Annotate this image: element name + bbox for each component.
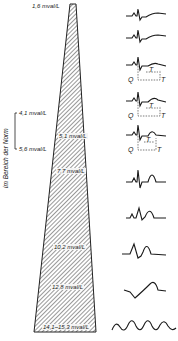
ecg-trace-7: [126, 208, 166, 220]
ecg-traces: [112, 9, 176, 330]
wedge-label-2: 7,7 mval/L: [56, 168, 86, 174]
ecg-trace-10: [112, 321, 176, 330]
wedge-label-5: 14,1–15,3 mval/L: [42, 324, 90, 330]
q-label-2: Q: [128, 112, 133, 119]
ecg-trace-2: [126, 30, 166, 42]
t-label-2: T: [161, 112, 165, 119]
q-label-1: Q: [128, 76, 133, 83]
q-label-3: Q: [128, 146, 133, 153]
top-value-label: 1,6 mval/L: [32, 3, 60, 9]
bracket-lower-label: 5,6 mval/L: [19, 146, 47, 152]
norm-bracket: [15, 113, 17, 149]
wedge-label-1: 5,1 mval/L: [58, 133, 88, 139]
wedge-label-3: 10,2 mval/L: [53, 244, 86, 250]
t-label-3: T: [157, 146, 161, 153]
ecg-trace-9: [124, 282, 166, 298]
diagram-canvas: [0, 0, 178, 341]
bracket-upper-label: 4,1 mval/L: [19, 110, 47, 116]
t-label-1: T: [161, 76, 165, 83]
ecg-trace-8: [122, 244, 166, 258]
t-interval-label-1: T: [149, 66, 153, 73]
ecg-trace-4: [126, 92, 166, 106]
norm-range-label: im Bereich der Norm: [2, 128, 9, 188]
ecg-trace-6: [126, 170, 166, 188]
t-interval-label-2: T: [149, 102, 153, 109]
ecg-trace-1: [126, 9, 166, 20]
ecg-trace-3: [126, 57, 166, 70]
t-interval-label-3: T: [146, 136, 150, 143]
wedge-label-4: 12,8 mval/L: [51, 284, 84, 290]
